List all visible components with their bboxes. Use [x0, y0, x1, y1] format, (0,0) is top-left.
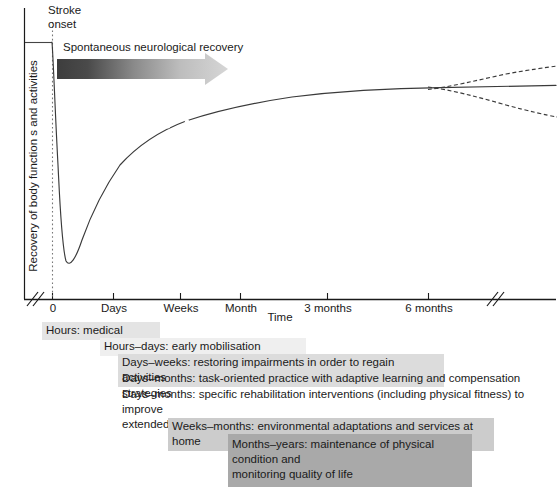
x-tick-label-month: Month [212, 302, 270, 314]
x-tick-label-days: Days [88, 302, 140, 314]
x-tick-label-0: 0 [38, 302, 68, 314]
x-axis-ticks [53, 293, 429, 299]
x-tick-label-weeks: Weeks [152, 302, 210, 314]
stroke-onset-label: Stroke onset [48, 3, 118, 31]
phase-item-months-years: Months–years: maintenance of physical co… [228, 434, 472, 487]
spontaneous-recovery-label: Spontaneous neurological recovery [63, 41, 243, 54]
spontaneous-recovery-arrow [57, 53, 228, 85]
x-tick-label-6months: 6 months [392, 302, 466, 314]
y-axis-title: Recovery of body function s and activiti… [27, 41, 39, 291]
poor-prognosis-dashed-line [428, 87, 557, 117]
x-tick-label-3months: 3 months [291, 302, 365, 314]
